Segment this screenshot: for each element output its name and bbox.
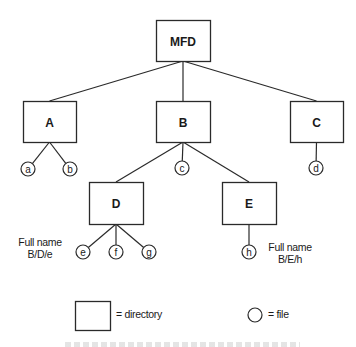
full-name-annotation-left: Full name B/D/e [12, 236, 68, 260]
directory-label: A [45, 116, 54, 130]
legend-file-circle-icon [248, 308, 262, 322]
directory-label: E [245, 197, 253, 211]
file-node-h: h [242, 245, 256, 259]
full-name-label: Full name [262, 241, 318, 253]
file-label: d [313, 163, 319, 174]
full-name-path: B/D/e [12, 248, 68, 260]
directory-node-B: B [157, 102, 211, 143]
file-node-a: a [21, 162, 35, 176]
edge-B-E [183, 142, 249, 182]
directory-label: D [112, 197, 121, 211]
edge-B-c [182, 142, 183, 161]
edge-A-b [50, 142, 66, 163]
edge-B-D [116, 142, 183, 182]
directory-label: MFD [170, 35, 196, 49]
directory-nodes: MFDABCDE [24, 21, 344, 225]
file-node-d: d [309, 161, 323, 175]
file-node-g: g [142, 245, 156, 259]
file-label: e [80, 247, 86, 258]
edge-D-g [116, 224, 144, 247]
directory-label: C [312, 116, 321, 130]
cut-off-figure-caption [65, 342, 300, 347]
file-node-b: b [63, 162, 77, 176]
file-label: g [146, 247, 152, 258]
file-label: f [115, 247, 118, 258]
file-node-e: e [76, 245, 90, 259]
edge-A-a [32, 142, 49, 164]
directory-node-E: E [223, 183, 277, 225]
edge-MFD-C [183, 61, 317, 101]
directory-label: B [179, 116, 188, 130]
edge-D-e [88, 224, 116, 247]
directory-node-C: C [291, 102, 344, 143]
full-name-label: Full name [12, 236, 68, 248]
edge-MFD-A [50, 61, 184, 101]
legend-directory-label: = directory [116, 308, 162, 320]
legend-directory-box-icon [76, 302, 111, 331]
legend-shapes [76, 302, 263, 331]
directory-tree-diagram: MFDABCDE abcdefgh [0, 0, 356, 347]
directory-node-A: A [24, 102, 77, 143]
file-node-c: c [175, 161, 189, 175]
file-label: c [180, 163, 185, 174]
file-label: b [67, 164, 73, 175]
legend-file-label: = file [268, 308, 289, 320]
full-name-annotation-right: Full name B/E/h [262, 241, 318, 265]
file-label: a [25, 164, 31, 175]
directory-node-MFD: MFD [157, 21, 211, 62]
full-name-path: B/E/h [262, 253, 318, 265]
directory-node-D: D [90, 183, 144, 225]
file-node-f: f [109, 245, 123, 259]
file-label: h [246, 247, 252, 258]
